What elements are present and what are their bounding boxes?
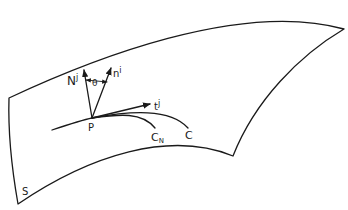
label-curve-cn: CN bbox=[151, 131, 164, 145]
surface-normal-vector bbox=[84, 70, 92, 118]
label-normal-n-lower: ni bbox=[113, 66, 122, 79]
surface-outline bbox=[9, 21, 344, 204]
label-surface-s: S bbox=[22, 186, 28, 197]
label-normal-n-upper: Nj bbox=[67, 73, 78, 88]
label-theta: θ bbox=[92, 78, 98, 88]
curve-cn bbox=[92, 115, 155, 128]
label-tangent: tj bbox=[154, 99, 160, 112]
principal-normal-vector bbox=[92, 68, 111, 118]
label-point-p: P bbox=[88, 122, 94, 133]
label-curve-c: C bbox=[185, 129, 193, 142]
surface-diagram: Nj θ ni tj P CN C S bbox=[0, 0, 348, 210]
